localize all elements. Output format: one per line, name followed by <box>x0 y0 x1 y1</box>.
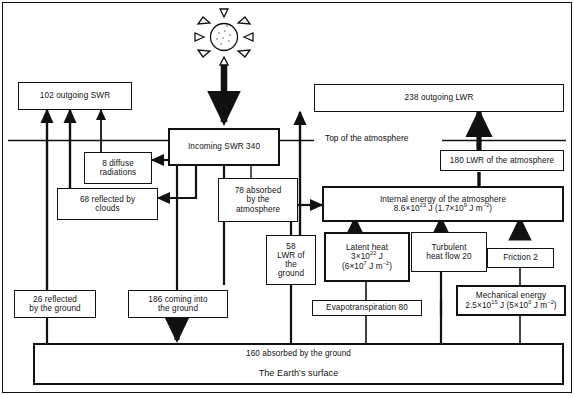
box-earths-surface: 160 absorbed by the ground The Earth's s… <box>33 343 564 385</box>
box-lwr-of-atmosphere: 180 LWR of the atmosphere <box>440 150 564 171</box>
outgoing-swr-label: 102 outgoing SWR <box>19 90 131 101</box>
box-reflected-by-clouds: 68 reflected by clouds <box>57 188 158 220</box>
lwr-ground-line2: LWR of <box>270 251 312 260</box>
box-lwr-of-ground: 58 LWR of the ground <box>266 235 316 285</box>
earths-surface-label: The Earth's surface <box>35 368 562 378</box>
absorbed-by-ground-label: 160 absorbed by the ground <box>35 349 562 358</box>
box-diffuse-radiations: 8 diffuse radiations <box>84 152 152 184</box>
reflected-ground-line1: 26 reflected <box>18 295 92 304</box>
box-internal-energy: Internal energy of the atmosphere 8.6×10… <box>322 186 564 222</box>
lwr-ground-line3: the <box>270 260 312 269</box>
turbulent-line1: Turbulent <box>415 243 483 252</box>
reflected-ground-line2: by the ground <box>18 304 92 313</box>
evapotranspiration-label: Evapotranspiration 80 <box>313 302 421 313</box>
diffuse-line2: radiations <box>88 168 148 177</box>
turbulent-line2: heat flow 20 <box>415 252 483 261</box>
absorbed-atm-line2: by the <box>222 195 294 204</box>
diffuse-line1: 8 diffuse <box>88 159 148 168</box>
clouds-line1: 68 reflected by <box>61 195 154 204</box>
box-absorbed-by-atmosphere: 78 absorbed by the atmosphere <box>218 178 298 222</box>
lwr-ground-line1: 58 <box>270 242 312 251</box>
sun-icon <box>186 6 262 68</box>
box-evapotranspiration: Evapotranspiration 80 <box>312 300 422 316</box>
latent-heat-value2: (6×107 J m−2) <box>329 262 405 271</box>
energy-balance-diagram: 102 outgoing SWR 238 outgoing LWR Incomi… <box>0 0 574 395</box>
box-mechanical-energy: Mechanical energy 2.5×1015 J (5×100 J m−… <box>456 285 566 316</box>
box-friction: Friction 2 <box>487 248 554 268</box>
top-of-atmosphere-label: Top of the atmosphere <box>322 133 411 143</box>
box-turbulent-heat-flow: Turbulent heat flow 20 <box>411 232 487 272</box>
coming-ground-line1: 186 coming into <box>132 295 224 304</box>
clouds-line2: clouds <box>61 204 154 213</box>
internal-energy-line1: Internal energy of the atmosphere <box>327 195 559 204</box>
mechanical-line1: Mechanical energy <box>461 291 561 300</box>
absorbed-atm-line3: atmosphere <box>222 205 294 214</box>
mechanical-value: 2.5×1015 J (5×100 J m−2) <box>461 301 561 310</box>
friction-label: Friction 2 <box>488 252 553 263</box>
coming-ground-line2: the ground <box>132 304 224 313</box>
lwr-atmosphere-label: 180 LWR of the atmosphere <box>441 155 563 166</box>
box-outgoing-lwr: 238 outgoing LWR <box>314 84 564 112</box>
box-incoming-swr: Incoming SWR 340 <box>168 128 280 166</box>
incoming-swr-label: Incoming SWR 340 <box>170 141 278 152</box>
absorbed-atm-line1: 78 absorbed <box>222 186 294 195</box>
box-coming-into-ground: 186 coming into the ground <box>128 290 228 318</box>
box-reflected-by-ground: 26 reflected by the ground <box>14 290 96 318</box>
latent-heat-value: 3×1022 J <box>329 252 405 261</box>
box-latent-heat: Latent heat 3×1022 J (6×107 J m−2) <box>324 232 410 282</box>
box-outgoing-swr: 102 outgoing SWR <box>18 82 132 110</box>
lwr-ground-line4: ground <box>270 269 312 278</box>
internal-energy-value: 8.6×1023 J (1.7×109 J m−2) <box>327 204 559 213</box>
outgoing-lwr-label: 238 outgoing LWR <box>315 92 563 103</box>
